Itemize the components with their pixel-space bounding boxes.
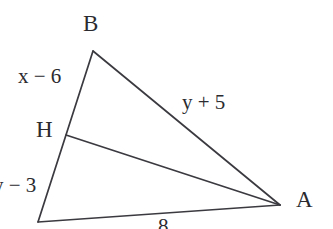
segment-h-to-a [66, 135, 280, 205]
vertex-label-h: H [36, 118, 53, 141]
side-label-bh: x − 6 [18, 66, 61, 87]
triangle-diagram [0, 0, 333, 229]
side-label-ca: 8 [158, 216, 169, 229]
vertex-label-a: A [296, 188, 313, 211]
side-label-ba: y + 5 [182, 92, 225, 113]
side-label-hc: y − 3 [0, 175, 36, 196]
segment-b-to-a [93, 51, 280, 205]
vertex-label-b: B [83, 12, 98, 35]
geometry-figure: B A H x − 6 y − 3 y + 5 8 [0, 0, 333, 229]
